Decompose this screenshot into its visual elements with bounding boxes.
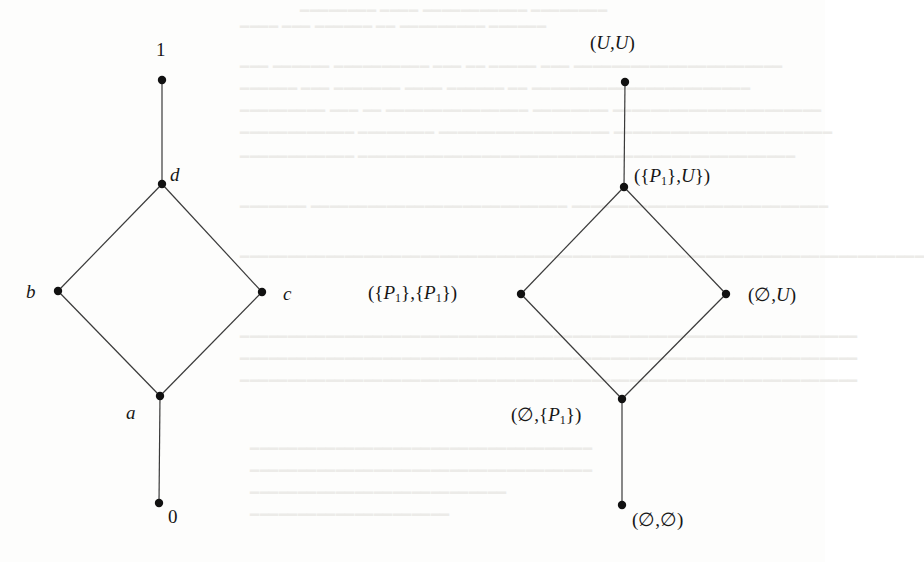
left-node-label-b: b xyxy=(26,282,36,301)
math-U: U xyxy=(681,165,695,186)
right-node-label-emptyU: (∅,U) xyxy=(748,285,796,304)
left-node-c xyxy=(258,288,266,296)
right-diagram-edges xyxy=(521,82,726,505)
left-node-top xyxy=(158,76,166,84)
left-edge-d-b xyxy=(58,184,162,291)
right-node-UU xyxy=(621,78,629,86)
right-node-emptyU xyxy=(722,290,730,298)
right-node-emptyP1 xyxy=(618,395,626,403)
right-edge-P1U-emptyU xyxy=(624,187,726,294)
right-edge-UU-P1U xyxy=(624,82,625,187)
left-edge-d-c xyxy=(162,184,262,292)
left-node-label-bottom: 0 xyxy=(168,507,178,526)
left-node-label-d: d xyxy=(170,165,180,184)
left-node-label-top: 1 xyxy=(156,40,166,59)
right-node-label-UU: (U,U) xyxy=(590,33,635,52)
left-node-d xyxy=(158,180,166,188)
left-edge-b-a xyxy=(58,291,160,396)
left-node-label-c: c xyxy=(283,284,291,303)
left-edge-a-bottom xyxy=(159,396,160,503)
text: ({ xyxy=(634,165,649,186)
left-diagram-edges xyxy=(58,80,262,503)
text: (∅, xyxy=(748,284,776,305)
left-node-bottom xyxy=(155,499,163,507)
text: }) xyxy=(442,282,457,303)
math-P: P xyxy=(383,282,395,303)
left-node-b xyxy=(54,287,62,295)
right-edge-P1P1-emptyP1 xyxy=(521,294,622,399)
right-node-label-P1U: ({P1},U}) xyxy=(634,166,710,187)
right-node-P1U xyxy=(620,183,628,191)
text: }, xyxy=(667,165,681,186)
paren: ) xyxy=(629,32,635,53)
left-node-a xyxy=(156,392,164,400)
right-edge-P1U-P1P1 xyxy=(521,187,624,294)
math-UU: U,U xyxy=(596,32,628,53)
text: },{ xyxy=(401,282,424,303)
right-node-emptyEmpty xyxy=(618,501,626,509)
text: ({ xyxy=(368,282,383,303)
math-U: U xyxy=(776,284,790,305)
right-edge-emptyU-emptyP1 xyxy=(622,294,726,399)
text: }) xyxy=(695,165,710,186)
text: (∅,{ xyxy=(511,404,548,425)
text: }) xyxy=(566,404,581,425)
text: ) xyxy=(790,284,796,305)
right-node-label-P1P1: ({P1},{P1}) xyxy=(368,283,457,304)
left-edge-c-a xyxy=(160,292,262,396)
right-node-label-emptyP1: (∅,{P1}) xyxy=(511,405,581,426)
right-diagram-nodes xyxy=(517,78,730,509)
left-node-label-a: a xyxy=(126,403,136,422)
right-node-label-emptyEmpty: (∅,∅) xyxy=(632,510,683,529)
math-P: P xyxy=(649,165,661,186)
right-node-P1P1 xyxy=(517,290,525,298)
math-P: P xyxy=(424,282,436,303)
math-P: P xyxy=(548,404,560,425)
